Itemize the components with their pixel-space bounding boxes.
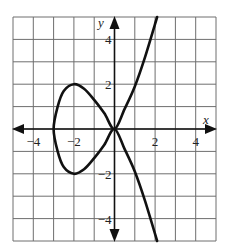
y-axis-up-arrow-icon xyxy=(110,16,120,29)
y-axis-down-arrow-icon xyxy=(110,229,120,242)
y-axis-label: y xyxy=(96,15,104,30)
x-tick-label: −2 xyxy=(67,134,81,149)
x-tick-labels: −4−224 xyxy=(26,134,199,149)
x-tick-label: −4 xyxy=(26,134,40,149)
y-tick-label: 4 xyxy=(105,32,112,47)
graph: x y −4−224 42−2−4 xyxy=(0,0,227,251)
x-axis-left-arrow-icon xyxy=(12,124,24,134)
y-tick-label: −2 xyxy=(98,167,112,182)
x-tick-label: 4 xyxy=(192,134,199,149)
y-tick-label: 2 xyxy=(105,77,112,92)
x-axis-label: x xyxy=(202,112,209,127)
y-tick-label: −4 xyxy=(98,212,112,227)
x-tick-label: 2 xyxy=(152,134,159,149)
